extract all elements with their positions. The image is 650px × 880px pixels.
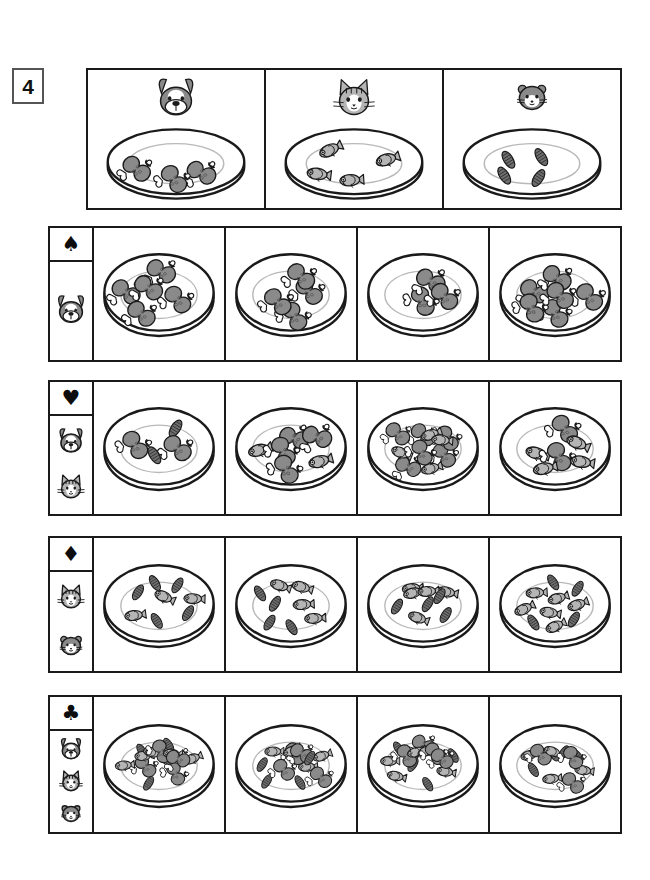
dog-icon [56, 428, 86, 456]
plate-cell [226, 228, 358, 360]
row-label-column: ♥ [50, 382, 94, 514]
row-club: ♣ [48, 695, 622, 834]
plate-cell [94, 382, 226, 514]
header-cell-cat [266, 70, 444, 208]
plate-seeds [457, 124, 607, 202]
plate-fish [279, 124, 429, 202]
suit-cell: ♥ [50, 382, 92, 416]
header-cell-dog [88, 70, 266, 208]
header-cell-hamster [444, 70, 620, 208]
plate-cell [358, 228, 490, 360]
plate-cell [358, 697, 490, 832]
plate-cell [94, 228, 226, 360]
suit-cell: ♣ [50, 697, 92, 731]
hamster-icon [58, 801, 84, 825]
cat-icon [58, 770, 84, 794]
row-animals [50, 731, 92, 832]
suit-cell: ♦ [50, 538, 92, 572]
plate-cell [94, 538, 226, 671]
club-icon: ♣ [62, 703, 81, 724]
hamster-icon [512, 78, 552, 115]
diamond-icon: ♦ [62, 544, 81, 565]
plate-cell [490, 538, 620, 671]
exercise-number: 4 [12, 68, 44, 104]
row-diamond: ♦ [48, 536, 622, 673]
row-animals [50, 262, 92, 360]
heart-icon: ♥ [62, 388, 81, 409]
spade-icon: ♠ [62, 234, 81, 255]
row-animals [50, 416, 92, 514]
row-label-column: ♣ [50, 697, 94, 832]
plate-cell [226, 382, 358, 514]
plate-drumsticks [101, 124, 251, 202]
row-animals [50, 572, 92, 671]
cat-icon [331, 78, 377, 120]
plate-cell [226, 538, 358, 671]
dog-icon [153, 78, 199, 120]
suit-cell: ♠ [50, 228, 92, 262]
plate-cell [358, 538, 490, 671]
dog-icon [58, 738, 84, 762]
row-cells [94, 382, 620, 514]
plate-cell [358, 382, 490, 514]
plate-cell [490, 382, 620, 514]
row-heart: ♥ [48, 380, 622, 516]
row-spade: ♠ [48, 226, 622, 362]
plate-cell [490, 697, 620, 832]
hamster-icon [56, 631, 86, 659]
dog-icon [54, 295, 88, 326]
row-label-column: ♦ [50, 538, 94, 671]
row-cells [94, 697, 620, 832]
plate-cell [226, 697, 358, 832]
row-cells [94, 538, 620, 671]
cat-icon [56, 474, 86, 502]
plate-cell [94, 697, 226, 832]
row-label-column: ♠ [50, 228, 94, 360]
header-table [86, 68, 622, 210]
plate-cell [490, 228, 620, 360]
row-cells [94, 228, 620, 360]
cat-icon [56, 584, 86, 612]
